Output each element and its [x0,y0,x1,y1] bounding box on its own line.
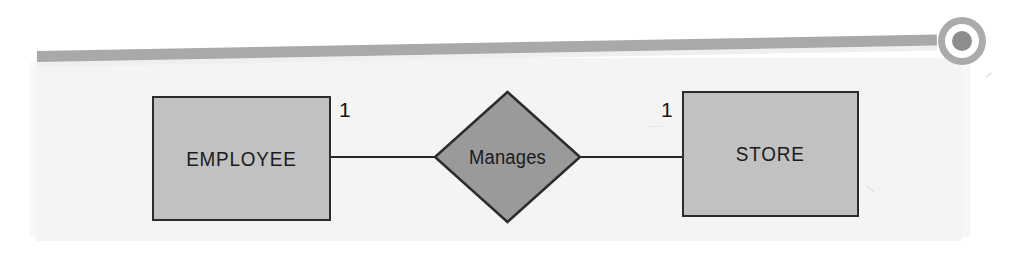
entity-store-label: STORE [736,142,805,166]
connector-employee-manages [330,156,435,158]
entity-employee-label: EMPLOYEE [186,147,296,171]
scan-artifact [985,72,992,78]
relationship-manages-label: Manages [439,90,576,224]
target-bullet-icon [938,17,986,65]
er-diagram-figure: EMPLOYEE 1 Manages 1 STORE [0,0,1026,261]
cardinality-employee-side: 1 [339,99,351,120]
connector-manages-store [580,156,683,158]
relationship-manages[interactable]: Manages [433,90,582,224]
entity-employee[interactable]: EMPLOYEE [152,96,331,221]
cardinality-store-side: 1 [661,99,673,120]
scan-artifact [648,126,662,127]
entity-store[interactable]: STORE [682,91,859,217]
target-center-dot [952,31,972,51]
